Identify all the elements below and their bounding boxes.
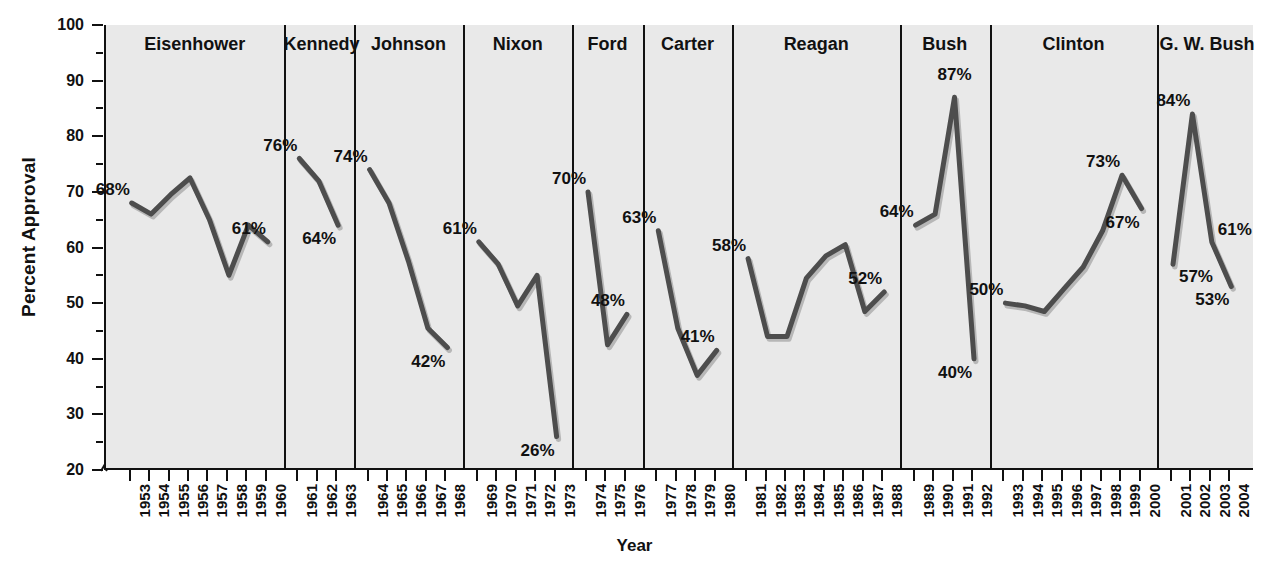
x-axis-tick <box>316 470 318 481</box>
series-line-nixon <box>479 242 557 437</box>
x-axis-tick <box>476 470 478 481</box>
y-axis-tick <box>96 107 103 109</box>
x-axis-year-label: 1985 <box>830 484 847 517</box>
panel-title-ford: Ford <box>572 34 642 55</box>
y-axis-tick-label: 100 <box>44 16 84 34</box>
data-label: 48% <box>591 291 625 311</box>
y-axis-tick-label: 50 <box>44 294 84 312</box>
data-label: 64% <box>302 229 336 249</box>
x-axis-tick <box>842 470 844 481</box>
approval-lines <box>106 25 1255 470</box>
x-axis-year-label: 1955 <box>175 484 192 517</box>
panel-title-bush: Bush <box>900 34 990 55</box>
data-label: 53% <box>1195 290 1229 310</box>
data-label: 50% <box>969 280 1003 300</box>
panel-divider <box>900 25 902 470</box>
x-axis-tick <box>168 470 170 481</box>
y-axis-tick <box>92 80 103 82</box>
x-axis-tick <box>296 470 298 481</box>
x-axis-year-label: 1974 <box>592 484 609 517</box>
data-label: 52% <box>848 269 882 289</box>
y-axis-tick <box>96 163 103 165</box>
x-axis-tick <box>554 470 556 481</box>
x-axis-tick <box>624 470 626 481</box>
panel-title-eisenhower: Eisenhower <box>106 34 284 55</box>
approval-rating-chart: Percent Approval 2030405060708090100 Eis… <box>0 0 1269 566</box>
x-axis-year-label: 1956 <box>194 484 211 517</box>
series-line-johnson <box>370 170 448 348</box>
panel-divider <box>463 25 465 470</box>
series-line-kennedy <box>299 159 338 226</box>
x-axis-year-label: 1967 <box>432 484 449 517</box>
x-axis-year-label: 1978 <box>682 484 699 517</box>
y-axis-tick-label: 30 <box>44 405 84 423</box>
x-axis-tick <box>425 470 427 481</box>
x-axis-year-label: 1994 <box>1029 484 1046 517</box>
x-axis-year-label: 1961 <box>303 484 320 517</box>
x-axis-tick <box>1209 470 1211 481</box>
x-axis-year-label: 1982 <box>772 484 789 517</box>
x-axis-tick <box>386 470 388 481</box>
y-axis-tick <box>92 358 103 360</box>
y-axis-tick-label: 80 <box>44 127 84 145</box>
panel-divider <box>284 25 286 470</box>
x-axis-year-label: 1964 <box>374 484 391 517</box>
x-axis-tick-marks <box>104 470 1253 482</box>
x-axis-year-label: 1954 <box>155 484 172 517</box>
x-axis-year-label: 1995 <box>1048 484 1065 517</box>
x-axis-tick <box>1061 470 1063 481</box>
panel-title-carter: Carter <box>643 34 733 55</box>
x-axis-year-label: 1991 <box>959 484 976 517</box>
series-line-reagan <box>748 245 884 337</box>
x-axis-tick <box>971 470 973 481</box>
panel-title-reagan: Reagan <box>732 34 900 55</box>
x-axis-tick <box>714 470 716 481</box>
data-label: 87% <box>938 65 972 85</box>
y-axis-tick <box>96 52 103 54</box>
x-axis-title: Year <box>0 536 1269 556</box>
x-axis-tick <box>655 470 657 481</box>
x-axis-year-label: 1979 <box>701 484 718 517</box>
x-axis-year-label: 1966 <box>412 484 429 517</box>
data-label: 26% <box>521 441 555 461</box>
x-axis-tick <box>1100 470 1102 481</box>
data-label: 57% <box>1179 267 1213 287</box>
x-axis-tick <box>444 470 446 481</box>
x-axis-tick <box>675 470 677 481</box>
y-axis-tick <box>96 330 103 332</box>
data-label: 40% <box>938 363 972 383</box>
x-axis-year-label: 1953 <box>136 484 153 517</box>
x-axis-year-label: 1975 <box>611 484 628 517</box>
x-axis-tick <box>367 470 369 481</box>
x-axis-year-label: 2001 <box>1177 484 1194 517</box>
panel-title-clinton: Clinton <box>990 34 1158 55</box>
data-label: 84% <box>1156 91 1190 111</box>
x-axis-year-label: 1981 <box>752 484 769 517</box>
x-axis-year-label: 1980 <box>721 484 738 517</box>
x-axis-tick <box>187 470 189 481</box>
data-label: 68% <box>96 180 130 200</box>
x-axis-year-label: 1999 <box>1126 484 1143 517</box>
x-axis-year-label: 1957 <box>213 484 230 517</box>
x-axis-year-label: 1971 <box>522 484 539 517</box>
data-label: 73% <box>1086 152 1120 172</box>
x-axis-tick <box>265 470 267 481</box>
data-label: 67% <box>1106 213 1140 233</box>
panel-divider <box>354 25 356 470</box>
y-axis-tick-labels: 2030405060708090100 <box>44 0 84 566</box>
series-line-clinton <box>1005 175 1141 311</box>
x-axis-tick <box>823 470 825 481</box>
x-axis-tick <box>1002 470 1004 481</box>
series-shadow <box>1007 178 1143 314</box>
x-axis-tick <box>604 470 606 481</box>
y-axis-tick <box>96 441 103 443</box>
y-axis-tick <box>92 135 103 137</box>
x-axis-year-label: 1968 <box>451 484 468 517</box>
x-axis-tick <box>881 470 883 481</box>
data-label: 61% <box>1218 220 1252 240</box>
x-axis-tick <box>1022 470 1024 481</box>
data-label: 41% <box>681 327 715 347</box>
data-label: 63% <box>622 208 656 228</box>
x-axis-year-label: 1986 <box>849 484 866 517</box>
x-axis-year-label: 1958 <box>233 484 250 517</box>
